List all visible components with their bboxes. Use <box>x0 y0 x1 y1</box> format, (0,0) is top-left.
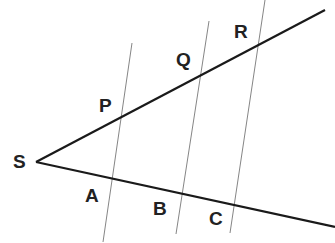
label-r: R <box>234 22 248 41</box>
geometry-diagram: S P Q R A B C <box>0 0 335 243</box>
label-a: A <box>85 186 99 205</box>
diagram-canvas <box>0 0 335 243</box>
transversal-pa <box>103 43 132 242</box>
label-q: Q <box>176 50 191 69</box>
label-c: C <box>209 209 223 228</box>
upper-ray <box>36 10 325 162</box>
label-s: S <box>13 152 26 171</box>
label-p: P <box>99 96 112 115</box>
label-b: B <box>153 199 167 218</box>
